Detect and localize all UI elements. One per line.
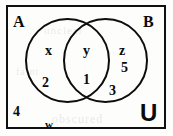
element-outside-4: 4	[13, 105, 20, 119]
set-b-circle	[63, 18, 148, 103]
set-a-label: A	[13, 14, 25, 30]
element-b-only-5: 5	[121, 61, 128, 75]
element-intersection-y: y	[83, 44, 90, 58]
element-b-only-3: 3	[109, 84, 116, 98]
set-b-label: B	[143, 14, 154, 30]
element-intersection-1: 1	[83, 73, 90, 87]
venn-diagram-figure: unclear faint obscured A B x 2 y 1 z 5 3…	[0, 0, 173, 136]
element-b-only-z: z	[119, 44, 125, 58]
element-a-only-x: x	[45, 44, 52, 58]
page-bottom-edge	[0, 134, 173, 136]
element-a-only-2: 2	[42, 76, 49, 90]
element-outside-w: w	[45, 119, 53, 130]
universal-set-label: U	[140, 101, 157, 125]
